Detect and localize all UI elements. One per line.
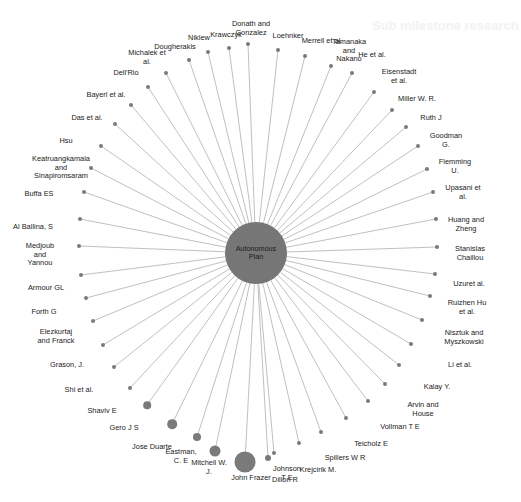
graph-node-label: Das et al. [71,114,102,123]
graph-node[interactable] [434,217,438,221]
graph-node[interactable] [303,54,307,58]
graph-node[interactable] [79,273,83,277]
graph-node[interactable] [206,50,210,54]
graph-edge [287,247,437,252]
graph-node-label: Arvin and House [407,401,438,418]
graph-node[interactable] [420,318,424,322]
graph-edge [101,146,230,235]
graph-node[interactable] [431,190,435,194]
graph-node-label: Gero J S [109,424,138,433]
graph-node[interactable] [329,64,333,68]
graph-node-label: Uzuret al. [453,280,485,289]
graph-edge [103,269,229,345]
graph-node[interactable] [193,433,201,441]
graph-node-label: Ruth J [420,114,441,123]
graph-node-label: Krawczyk [210,31,242,40]
graph-node-label: Medjoub and Yannou [26,242,54,268]
graph-edge [84,192,227,243]
graph-node[interactable] [319,430,323,434]
graph-edge [215,283,250,451]
graph-edge [280,272,399,365]
graph-node[interactable] [235,452,256,473]
graph-node[interactable] [416,144,420,148]
graph-node-label: Huang and Zheng [448,216,484,233]
graph-edge [263,56,305,223]
graph-edge [275,278,368,401]
graph-node-label: Armour GL [28,284,64,293]
graph-node[interactable] [383,382,387,386]
graph-node[interactable] [112,365,116,369]
graph-node[interactable] [428,294,432,298]
graph-node[interactable] [344,416,348,420]
graph-edge [278,275,385,384]
graph-node[interactable] [246,42,250,46]
graph-node[interactable] [390,108,394,112]
graph-node[interactable] [372,90,376,94]
graph-node[interactable] [164,71,168,75]
graph-node[interactable] [128,386,132,390]
graph-node-label: Spillers W R [325,454,366,463]
graph-node[interactable] [297,441,301,445]
graph-node-label: Loehnker [273,32,304,41]
graph-edge [284,169,427,239]
network-diagram-canvas: Sub milestone research Donath and Gonzal… [0,0,521,502]
graph-edge [286,260,430,296]
graph-node[interactable] [187,58,191,62]
graph-node[interactable] [101,343,105,347]
graph-edge [93,265,227,321]
graph-edge [285,192,433,243]
graph-edge [115,124,233,232]
graph-edge [271,73,352,226]
graph-node[interactable] [143,401,151,409]
graph-node[interactable] [210,446,221,457]
graph-node-label: Upasani et al. [445,184,480,201]
graph-node-label: Hsu [59,137,72,146]
graph-node-label: He et al. [358,51,386,60]
graph-node-label: Li et al. [448,361,472,370]
graph-node[interactable] [265,455,271,461]
graph-node[interactable] [129,103,133,107]
graph-edge [268,66,331,224]
graph-node[interactable] [397,363,401,367]
graph-node-label: Teicholz E [354,440,388,449]
graph-node[interactable] [404,125,408,129]
graph-node[interactable] [435,245,439,249]
graph-node[interactable] [84,296,88,300]
graph-edge [80,219,226,247]
graph-node[interactable] [113,122,117,126]
graph-node-label: Shaviv E [87,407,116,416]
graph-node-label: Keatruangkamala and Sinapiromsaram [32,155,90,181]
graph-node[interactable] [82,190,86,194]
graph-edge [147,278,238,405]
graph-node-label: Miller W. R. [398,95,436,104]
graph-node-label: John Frazer [231,474,270,483]
graph-node[interactable] [146,85,150,89]
graph-node[interactable] [433,272,437,276]
graph-node-label: Flemming U. [439,158,471,175]
graph-node-label: Grason, J. [50,361,84,370]
graph-edge [285,265,422,320]
graph-node[interactable] [227,46,231,50]
graph-node[interactable] [272,451,276,455]
graph-edge [79,246,225,252]
graph-node[interactable] [276,48,280,52]
graph-node[interactable] [350,71,354,75]
graph-edge [86,261,226,298]
graph-edge [197,283,247,437]
graph-edge [280,127,406,233]
graph-node[interactable] [167,419,177,429]
graph-node-label: Kalay Y. [424,383,450,392]
graph-node-label: Bayerl et al. [86,91,125,100]
graph-edge [245,284,254,462]
graph-node[interactable] [78,217,82,221]
graph-edge [287,257,435,274]
graph-node[interactable] [91,319,95,323]
graph-node[interactable] [366,399,370,403]
graph-node[interactable] [99,144,103,148]
graph-node[interactable] [425,167,429,171]
graph-node[interactable] [409,342,413,346]
graph-node-label: Elezkurtaj and Franck [38,328,75,345]
graph-edge [81,257,225,275]
graph-node-label: Vollman T E [380,423,420,432]
graph-node[interactable] [77,244,81,248]
